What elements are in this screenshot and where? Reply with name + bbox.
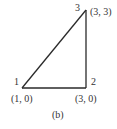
edge-3-1 xyxy=(22,10,86,88)
node-1-coords: (1, 0) xyxy=(11,94,33,104)
node-1-label: 1 xyxy=(14,77,19,87)
figure-caption: (b) xyxy=(52,110,64,120)
node-3-label: 3 xyxy=(75,3,80,13)
node-2-coords: (3, 0) xyxy=(75,94,97,104)
node-3-coords: (3, 3) xyxy=(90,7,112,17)
node-2-label: 2 xyxy=(91,77,96,87)
